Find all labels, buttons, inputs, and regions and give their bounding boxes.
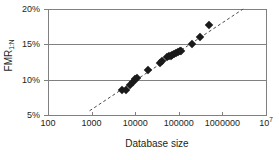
- x-axis-title: Database size: [48, 138, 266, 149]
- x-tick-label-exponent: 7: [269, 116, 273, 123]
- x-tick-mark: [92, 112, 93, 116]
- x-tick-mark: [266, 112, 267, 116]
- plot-area: [48, 9, 266, 115]
- chart-container: 5%10%15%20%1001000100001000001000000107 …: [0, 0, 279, 160]
- plot-right-border: [266, 9, 267, 116]
- y-gridline: [48, 44, 266, 45]
- x-tick-mark: [48, 112, 49, 116]
- y-tick-label: 20%: [0, 4, 46, 14]
- x-axis-line: [48, 115, 267, 116]
- y-axis-title-subscript: 1:N: [8, 40, 15, 50]
- x-tick-label: 107: [236, 119, 279, 128]
- x-tick-mark: [222, 112, 223, 116]
- x-tick-mark: [179, 112, 180, 116]
- x-tick-label-base: 10: [259, 118, 269, 128]
- y-gridline: [48, 9, 266, 10]
- y-axis-title: FMR1:N: [3, 26, 14, 86]
- x-tick-mark: [135, 112, 136, 116]
- y-axis-title-text: FMR: [3, 50, 14, 72]
- y-gridline: [48, 80, 266, 81]
